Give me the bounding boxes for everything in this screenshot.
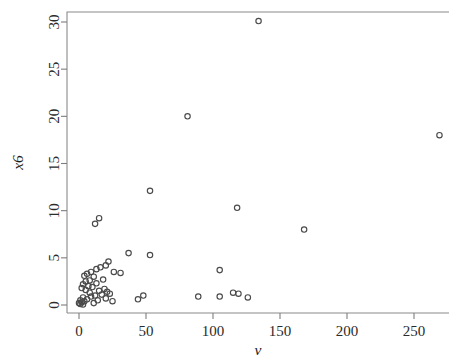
scatter-point — [196, 294, 201, 299]
y-tick-label: 5 — [46, 254, 62, 262]
scatter-point — [147, 252, 152, 257]
scatter-point — [437, 133, 442, 138]
scatter-point — [100, 277, 105, 282]
scatter-point — [217, 267, 222, 272]
scatter-point — [234, 205, 239, 210]
scatter-point — [245, 295, 250, 300]
y-tick-label: 15 — [46, 156, 62, 171]
scatter-point — [147, 188, 152, 193]
y-tick-label: 0 — [46, 301, 62, 309]
scatter-point-group — [76, 18, 442, 307]
x-axis-tick-labels: 050100150200250 — [75, 323, 425, 339]
x-tick-label: 150 — [269, 323, 292, 339]
x-axis-title: v — [255, 341, 262, 358]
scatter-point — [301, 227, 306, 232]
scatter-plot-figure: 050100150200250 051015202530 v x6 — [0, 0, 452, 362]
scatter-point — [96, 216, 101, 221]
x-axis-tick-marks — [79, 313, 414, 319]
scatter-point — [111, 269, 116, 274]
y-tick-label: 10 — [46, 203, 62, 218]
x-tick-label: 250 — [403, 323, 426, 339]
scatter-point — [141, 293, 146, 298]
y-axis-title: x6 — [9, 155, 26, 171]
scatter-point — [103, 296, 108, 301]
scatter-point — [92, 221, 97, 226]
scatter-point — [217, 294, 222, 299]
x-tick-label: 200 — [336, 323, 359, 339]
y-axis-tick-labels: 051015202530 — [46, 15, 62, 309]
scatter-point — [256, 18, 261, 23]
x-tick-label: 50 — [139, 323, 154, 339]
scatter-point — [126, 250, 131, 255]
x-tick-label: 0 — [75, 323, 83, 339]
y-tick-label: 20 — [46, 109, 62, 124]
scatter-point — [236, 291, 241, 296]
scatter-point — [91, 300, 96, 305]
scatter-point — [230, 290, 235, 295]
y-tick-label: 30 — [46, 15, 62, 30]
y-tick-label: 25 — [46, 62, 62, 77]
scatter-point — [135, 297, 140, 302]
scatter-point — [110, 299, 115, 304]
plot-frame — [67, 12, 449, 313]
plot-canvas: 050100150200250 051015202530 v x6 — [0, 0, 452, 362]
x-tick-label: 100 — [202, 323, 225, 339]
scatter-point — [185, 114, 190, 119]
scatter-point — [118, 270, 123, 275]
